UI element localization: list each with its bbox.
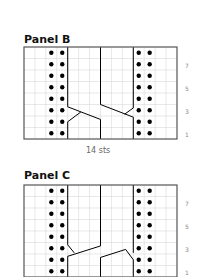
purl-dot-icon: [49, 108, 53, 112]
purl-dot-icon: [60, 120, 64, 124]
purl-dot-icon: [60, 74, 64, 78]
purl-dot-icon: [49, 223, 53, 227]
purl-dot-icon: [60, 108, 64, 112]
purl-dot-icon: [49, 200, 53, 204]
purl-dot-icon: [137, 120, 141, 124]
purl-dot-icon: [147, 131, 151, 135]
purl-dot-icon: [137, 269, 141, 273]
purl-dot-icon: [137, 258, 141, 262]
purl-dot-icon: [60, 200, 64, 204]
purl-dot-icon: [147, 200, 151, 204]
purl-dot-icon: [49, 62, 53, 66]
purl-dot-icon: [137, 97, 141, 101]
purl-dot-icon: [147, 235, 151, 239]
purl-dot-icon: [147, 97, 151, 101]
purl-dot-icon: [60, 51, 64, 55]
purl-dot-icon: [137, 108, 141, 112]
purl-dot-icon: [147, 74, 151, 78]
purl-dot-icon: [147, 246, 151, 250]
purl-dot-icon: [147, 108, 151, 112]
purl-dot-icon: [147, 223, 151, 227]
purl-dot-icon: [60, 269, 64, 273]
purl-dot-icon: [137, 51, 141, 55]
purl-dot-icon: [147, 51, 151, 55]
purl-dot-icon: [49, 258, 53, 262]
purl-dot-icon: [49, 269, 53, 273]
purl-dot-icon: [60, 258, 64, 262]
purl-dot-icon: [49, 97, 53, 101]
purl-dot-icon: [49, 212, 53, 216]
purl-dot-icon: [147, 62, 151, 66]
purl-dot-icon: [49, 246, 53, 250]
purl-dot-icon: [49, 235, 53, 239]
chart-drawing: [0, 0, 203, 277]
purl-dot-icon: [60, 62, 64, 66]
purl-dot-icon: [137, 212, 141, 216]
cable-line: [125, 47, 134, 114]
purl-dot-icon: [137, 223, 141, 227]
purl-dot-icon: [49, 74, 53, 78]
purl-dot-icon: [49, 120, 53, 124]
purl-dot-icon: [60, 131, 64, 135]
purl-dot-icon: [147, 212, 151, 216]
purl-dot-icon: [137, 189, 141, 193]
purl-dot-icon: [49, 189, 53, 193]
purl-dot-icon: [60, 235, 64, 239]
purl-dot-icon: [49, 131, 53, 135]
purl-dot-icon: [60, 246, 64, 250]
purl-dot-icon: [147, 85, 151, 89]
purl-dot-icon: [60, 189, 64, 193]
purl-dot-icon: [60, 212, 64, 216]
cable-line: [101, 249, 134, 277]
purl-dot-icon: [137, 246, 141, 250]
purl-dot-icon: [137, 200, 141, 204]
purl-dot-icon: [137, 131, 141, 135]
purl-dot-icon: [137, 235, 141, 239]
purl-dot-icon: [137, 85, 141, 89]
purl-dot-icon: [60, 223, 64, 227]
purl-dot-icon: [147, 269, 151, 273]
purl-dot-icon: [49, 51, 53, 55]
purl-dot-icon: [60, 97, 64, 101]
purl-dot-icon: [49, 85, 53, 89]
purl-dot-icon: [147, 258, 151, 262]
purl-dot-icon: [60, 85, 64, 89]
purl-dot-icon: [147, 189, 151, 193]
purl-dot-icon: [147, 120, 151, 124]
purl-dot-icon: [137, 74, 141, 78]
purl-dot-icon: [137, 62, 141, 66]
